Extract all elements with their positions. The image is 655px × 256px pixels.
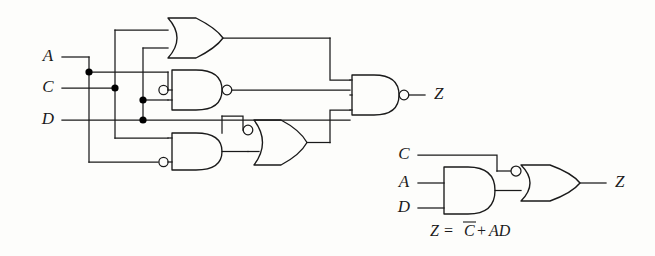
equation-complement-term: C xyxy=(464,222,475,239)
output-label-z-left: Z xyxy=(434,84,444,103)
right-circuit-group xyxy=(418,155,606,214)
logic-circuit-figure: A C D Z C A D Z Z = C + AD xyxy=(0,0,655,256)
gate-or-top xyxy=(168,18,350,80)
junction-c-trunk xyxy=(111,84,118,91)
input-label-a-left: A xyxy=(42,46,54,65)
output-label-z-right: Z xyxy=(615,172,625,191)
junction-d-trunk xyxy=(139,116,146,123)
gate-or-right-body xyxy=(521,165,580,201)
junction-d-nand xyxy=(139,96,146,103)
equation-group: Z = C + AD xyxy=(430,222,511,239)
gate-nand-final xyxy=(350,75,425,115)
gate-or-lower-body xyxy=(254,120,307,165)
gate-or-top-body xyxy=(168,18,223,58)
equation-plus: + xyxy=(477,222,486,239)
equation-product-term: AD xyxy=(488,222,511,239)
gate-or-right-input-bubble-icon xyxy=(511,166,521,176)
input-label-c-right: C xyxy=(398,144,410,163)
junction-a-nand xyxy=(85,68,92,75)
gate-nand-final-body xyxy=(352,75,399,115)
left-circuit-group xyxy=(62,18,425,170)
gate-or-right xyxy=(511,165,606,201)
gate-and-lower-input-bubble-icon xyxy=(159,157,168,166)
wire-right-c-route xyxy=(418,155,497,171)
input-label-a-right: A xyxy=(398,172,410,191)
input-label-d-right: D xyxy=(397,197,411,216)
gate-nand-middle-output-bubble-icon xyxy=(222,85,232,95)
wire-or-top-to-final xyxy=(330,38,350,80)
gate-and-lower-body xyxy=(172,133,222,170)
gate-nand-middle xyxy=(159,70,350,110)
gate-and-right xyxy=(444,167,521,214)
gate-and-right-body xyxy=(444,167,495,214)
gate-nand-middle-body xyxy=(172,70,222,110)
gate-and-lower xyxy=(159,133,248,170)
input-label-d-left: D xyxy=(41,109,55,128)
input-label-c-left: C xyxy=(42,77,54,96)
equation-equals: = xyxy=(444,222,453,239)
gate-nand-final-output-bubble-icon xyxy=(399,90,409,100)
circuit-diagram-canvas: A C D Z C A D Z Z = C + AD xyxy=(0,0,655,256)
wire-into-or-lower-bubble xyxy=(222,116,243,130)
gate-nand-middle-input-bubble-icon xyxy=(159,85,168,94)
gate-or-lower xyxy=(222,110,350,165)
wire-or-lower-to-final xyxy=(330,110,350,143)
equation-lhs: Z xyxy=(430,222,440,239)
gate-or-lower-input-bubble-icon xyxy=(243,125,253,135)
